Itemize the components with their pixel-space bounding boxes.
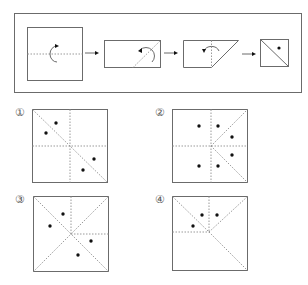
option-2-label: ②: [155, 107, 165, 118]
right-arrow-icon: [85, 51, 99, 55]
fold-arrow-icon: [202, 46, 219, 53]
option-1-label: ①: [15, 107, 25, 118]
option-3[interactable]: [34, 197, 109, 272]
puzzle-diagram: [0, 0, 308, 285]
right-arrow-icon: [242, 52, 256, 56]
option-1[interactable]: [33, 110, 108, 183]
step-2-rectangle: [105, 41, 161, 68]
punch-hole: [277, 46, 280, 49]
option-3-label: ③: [15, 194, 25, 205]
option-4[interactable]: [173, 197, 248, 271]
option-2[interactable]: [173, 110, 248, 183]
option-4-label: ④: [155, 194, 165, 205]
step-3-trapezoid: [184, 41, 239, 68]
step-1-square: [28, 28, 83, 81]
fold-arrow-icon: [50, 44, 59, 62]
right-arrow-icon: [164, 51, 178, 55]
step-4-punched-square: [261, 40, 289, 67]
